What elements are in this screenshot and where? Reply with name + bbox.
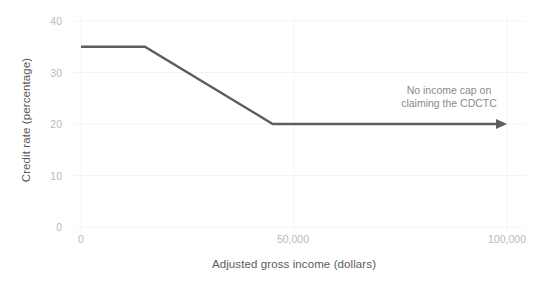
chart-container: 40 30 20 10 0 0 50,000 100,000 Credit ra… bbox=[0, 0, 540, 288]
annotation-no-income-cap: No income cap on claiming the CDCTC bbox=[384, 84, 514, 110]
arrow-right-icon bbox=[496, 119, 507, 129]
plot-area bbox=[0, 0, 540, 288]
annotation-line-1: No income cap on bbox=[384, 84, 514, 97]
annotation-line-2: claiming the CDCTC bbox=[384, 97, 514, 110]
